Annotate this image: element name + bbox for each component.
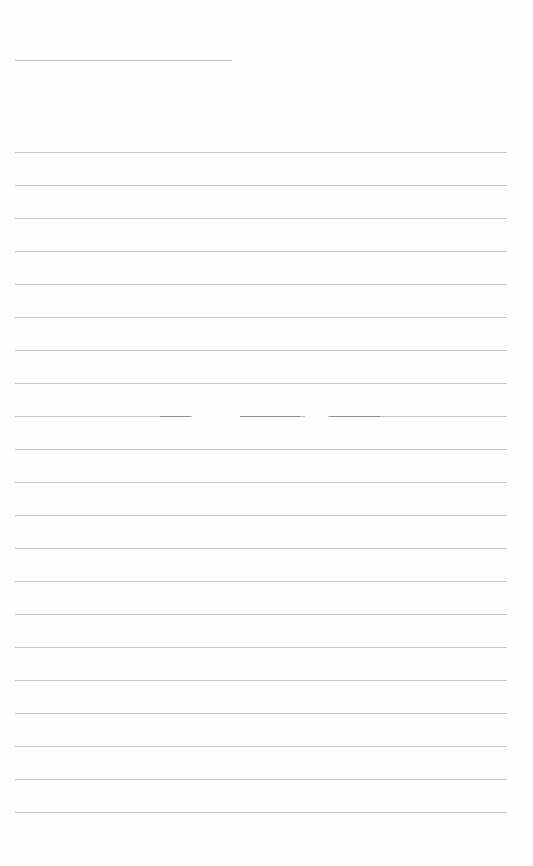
ruled-line (15, 614, 507, 615)
ruled-line (15, 482, 507, 483)
ruled-line (15, 350, 507, 351)
ruled-line (15, 317, 507, 318)
ruled-line (15, 548, 507, 549)
ruled-line (15, 251, 507, 252)
rule-gap (192, 415, 240, 418)
ruled-line (15, 515, 507, 516)
ruled-line (15, 449, 507, 450)
ruled-line (15, 680, 507, 681)
header-rule (15, 60, 232, 61)
ruled-line (15, 581, 507, 582)
ruled-line (15, 152, 507, 153)
dark-rule-segment (160, 416, 190, 417)
rule-gap (305, 415, 328, 418)
ruled-line (15, 383, 507, 384)
ruled-line (15, 218, 507, 219)
dark-rule-segment (240, 416, 300, 417)
ruled-line (15, 185, 507, 186)
dark-rule-segment (330, 416, 380, 417)
ruled-line (15, 812, 507, 813)
lined-page (0, 0, 533, 866)
ruled-line (15, 779, 507, 780)
ruled-line (15, 647, 507, 648)
ruled-line (15, 284, 507, 285)
ruled-line (15, 746, 507, 747)
ruled-line (15, 713, 507, 714)
